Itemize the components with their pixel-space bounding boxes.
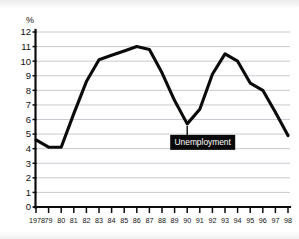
y-axis-tick-label: 12 (20, 26, 31, 37)
x-axis-tick-label: 80 (57, 216, 65, 225)
y-axis-tick-label: 5 (26, 128, 31, 139)
x-axis-tick-label: 79 (45, 216, 53, 225)
x-axis-tick-labels: 1978798081828384858687888990919293949596… (29, 216, 292, 225)
x-axis-tick-label: 91 (196, 216, 204, 225)
x-axis-tick-label: 96 (259, 216, 267, 225)
x-axis-tick-label: 92 (208, 216, 216, 225)
y-axis-tick-label: 1 (26, 187, 31, 198)
x-axis-tick-label: 98 (284, 216, 292, 225)
x-axis-tick-label: 82 (82, 216, 90, 225)
x-axis-tick-label: 89 (171, 216, 179, 225)
x-axis-tick-label: 97 (271, 216, 279, 225)
y-axis-tick-label: 11 (21, 41, 31, 52)
x-axis-tick-label: 84 (108, 216, 116, 225)
x-axis-tick-marks (36, 207, 288, 213)
x-axis-tick-label: 86 (133, 216, 141, 225)
x-axis-tick-label: 81 (70, 216, 78, 225)
annotation-unemployment: Unemployment (170, 126, 235, 150)
x-axis-tick-label: 93 (221, 216, 229, 225)
annotation-label: Unemployment (175, 137, 232, 147)
y-axis-tick-label: 9 (26, 70, 31, 81)
y-axis-tick-label: 8 (26, 85, 31, 96)
y-axis-tick-labels: 0123456789101112 (20, 26, 36, 212)
y-axis-tick-label: 2 (26, 172, 31, 183)
x-axis-tick-label: 83 (95, 216, 103, 225)
y-axis-tick-label: 7 (26, 99, 31, 110)
x-axis-tick-label: 94 (234, 216, 242, 225)
unemployment-line-chart: % 0123456789101112 Unemployment 19787980… (0, 0, 299, 239)
chart-figure: % 0123456789101112 Unemployment 19787980… (0, 0, 299, 239)
y-axis-tick-label: 10 (20, 56, 31, 67)
x-axis-tick-label: 1978 (29, 216, 45, 225)
x-axis-tick-label: 90 (183, 216, 191, 225)
x-axis-tick-label: 87 (145, 216, 153, 225)
y-axis-tick-label: 0 (26, 201, 31, 212)
y-axis-tick-label: 3 (26, 158, 31, 169)
x-axis-tick-label: 88 (158, 216, 166, 225)
x-axis-tick-label: 95 (246, 216, 254, 225)
y-axis-tick-label: 4 (26, 143, 31, 154)
series-line-unemployment (36, 47, 288, 148)
y-axis-unit-label: % (26, 15, 34, 25)
x-axis-tick-label: 85 (120, 216, 128, 225)
y-axis-tick-label: 6 (26, 114, 31, 125)
